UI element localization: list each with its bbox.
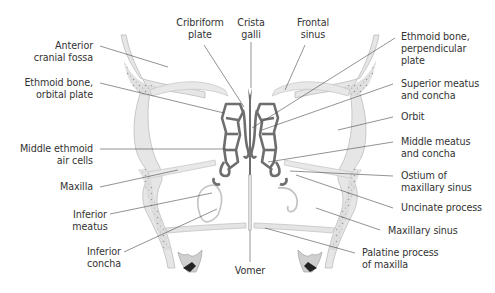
label-anterior-cranial-fossa: Anterior cranial fossa xyxy=(34,40,93,64)
label-ethmoid-perpendicular-plate: Ethmoid bone, perpendicular plate xyxy=(401,31,470,67)
label-line: Middle ethmoid xyxy=(20,143,93,155)
label-uncinate-process: Uncinate process xyxy=(401,202,482,214)
label-line: Cribriform xyxy=(172,17,228,29)
label-line: Vomer xyxy=(228,265,272,277)
label-line: Inferior xyxy=(82,246,126,258)
label-line: meatus xyxy=(68,221,112,233)
label-ethmoid-orbital-plate: Ethmoid bone, orbital plate xyxy=(24,77,93,101)
label-line: Frontal xyxy=(288,17,338,29)
right-half-skull xyxy=(251,35,379,272)
leader-maxilla xyxy=(100,170,178,187)
label-line: orbital plate xyxy=(24,89,93,101)
label-maxillary-sinus: Maxillary sinus xyxy=(388,225,458,237)
label-line: Inferior xyxy=(68,209,112,221)
label-line: Ostium of xyxy=(401,170,472,182)
label-line: Maxillary sinus xyxy=(388,225,458,237)
label-line: Palatine process xyxy=(362,247,439,259)
label-line: Orbit xyxy=(401,111,425,123)
label-line: plate xyxy=(401,55,470,67)
label-line: air cells xyxy=(20,155,93,167)
label-crista-galli: Crista galli xyxy=(228,17,274,41)
label-line: Ethmoid bone, xyxy=(401,31,470,43)
label-palatine-process: Palatine process of maxilla xyxy=(362,247,439,271)
label-ostium-maxillary-sinus: Ostium of maxillary sinus xyxy=(401,170,472,194)
label-vomer: Vomer xyxy=(228,265,272,277)
leader-inferior-meatus xyxy=(110,193,212,214)
label-line: of maxilla xyxy=(362,259,439,271)
left-palate xyxy=(165,223,246,233)
label-orbit: Orbit xyxy=(401,111,425,123)
label-line: and concha xyxy=(401,90,479,102)
label-line: perpendicular xyxy=(401,43,470,55)
label-line: galli xyxy=(228,29,274,41)
label-line: Superior meatus xyxy=(401,78,479,90)
label-middle-meatus-concha: Middle meatus and concha xyxy=(401,136,470,160)
label-frontal-sinus: Frontal sinus xyxy=(288,17,338,41)
label-line: Maxilla xyxy=(60,181,93,193)
nasal-septum xyxy=(248,88,252,230)
label-inferior-meatus: Inferior meatus xyxy=(68,209,112,233)
label-line: plate xyxy=(172,29,228,41)
leader-cribriform xyxy=(204,45,244,107)
label-line: Middle meatus xyxy=(401,136,470,148)
label-line: Uncinate process xyxy=(401,202,482,214)
leader-perpendicular-plate xyxy=(252,38,395,128)
label-line: cranial fossa xyxy=(34,52,93,64)
label-line: and concha xyxy=(401,148,470,160)
leader-middle-meatus xyxy=(268,142,393,162)
label-line: maxillary sinus xyxy=(401,182,472,194)
label-cribriform-plate: Cribriform plate xyxy=(172,17,228,41)
label-line: concha xyxy=(82,258,126,270)
label-middle-ethmoid-air-cells: Middle ethmoid air cells xyxy=(20,143,93,167)
label-maxilla: Maxilla xyxy=(60,181,93,193)
label-line: sinus xyxy=(288,29,338,41)
label-inferior-concha: Inferior concha xyxy=(82,246,126,270)
label-superior-meatus-concha: Superior meatus and concha xyxy=(401,78,479,102)
left-ethmoid-labyrinth xyxy=(213,104,248,185)
left-half-skull xyxy=(121,35,249,272)
label-line: Anterior xyxy=(34,40,93,52)
label-line: Crista xyxy=(228,17,274,29)
label-line: Ethmoid bone, xyxy=(24,77,93,89)
